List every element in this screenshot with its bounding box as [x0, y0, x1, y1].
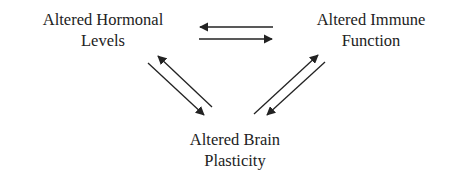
arrow-brain-to-immune	[254, 55, 318, 114]
arrow-brain-to-hormonal	[158, 56, 212, 107]
arrow-hormonal-to-brain	[148, 63, 204, 115]
arrow-immune-to-brain	[267, 62, 325, 115]
arrows-layer	[0, 0, 459, 183]
